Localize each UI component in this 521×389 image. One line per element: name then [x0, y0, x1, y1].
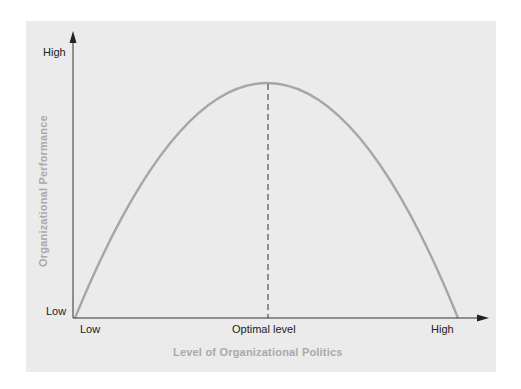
y-tick-high: High — [43, 46, 66, 58]
x-tick-optimal: Optimal level — [232, 323, 296, 335]
y-tick-low: Low — [46, 305, 66, 317]
x-tick-low: Low — [80, 323, 100, 335]
performance-curve — [75, 83, 458, 318]
y-axis-title: Organizational Performance — [37, 115, 49, 267]
y-axis-arrow-icon — [70, 31, 77, 43]
x-axis-arrow-icon — [477, 315, 489, 322]
x-axis-title: Level of Organizational Politics — [173, 346, 343, 358]
x-tick-high: High — [431, 323, 454, 335]
